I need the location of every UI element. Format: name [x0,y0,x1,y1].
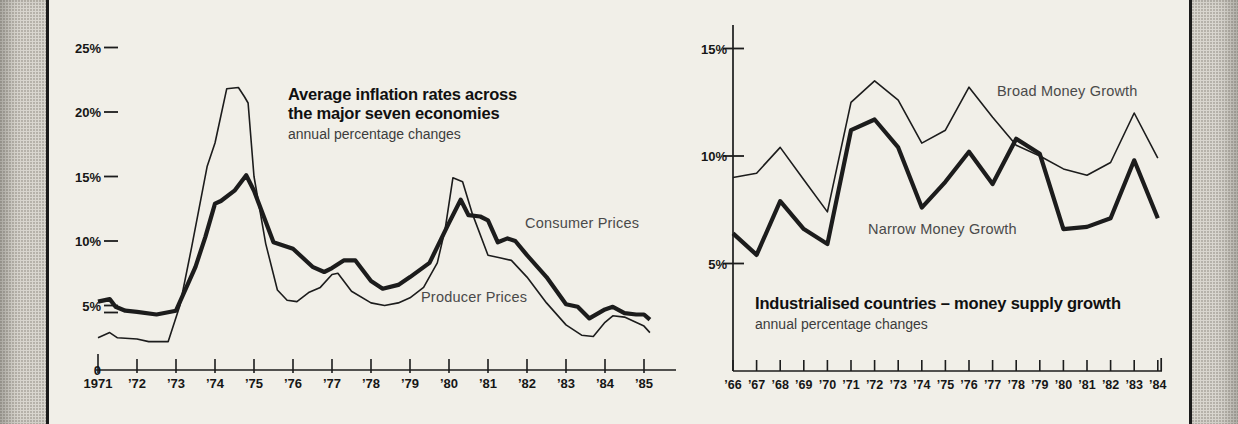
inflation-x-tick-label: ’75 [245,376,263,391]
inflation-y-tick-label: 0 [94,363,101,378]
series-label-narrow-money-growth: Narrow Money Growth [868,221,1017,237]
inflation-x-tick-label: ’80 [440,376,458,391]
inflation-series-consumer-prices [98,175,650,320]
inflation-x-tick-label: ’81 [479,376,497,391]
inflation-x-tick-label: ’73 [167,376,185,391]
money-x-tick-label: ’77 [984,378,1001,392]
money-x-tick-label: ’74 [913,378,930,392]
money-x-tick-label: ’83 [1126,378,1143,392]
money-chart-title: Industrialised countries – money supply … [755,294,1121,334]
money-title-line-1: Industrialised countries – money supply … [755,294,1121,313]
inflation-x-tick-label: ’77 [323,376,341,391]
series-label-consumer-prices: Consumer Prices [525,215,639,231]
inflation-y-tick-label: 20% [75,105,101,120]
money-chart-subtitle: annual percentage changes [755,315,1121,334]
inflation-y-tick-label: 10% [75,234,101,249]
inflation-x-tick-label: ’76 [284,376,302,391]
money-x-tick-label: ’75 [937,378,954,392]
money-x-tick-label: ’80 [1055,378,1072,392]
inflation-title-line-2: the major seven economies [288,104,517,123]
money-x-tick-label: ’82 [1102,378,1119,392]
money-y-tick-label: 5% [708,257,727,272]
inflation-x-tick-label: ’82 [518,376,536,391]
money-x-tick-label: ’70 [819,378,836,392]
money-x-tick-label: ’72 [866,378,883,392]
money-y-tick-label: 10% [701,149,727,164]
inflation-x-tick-label: ’74 [206,376,225,391]
inflation-x-tick-label: ’79 [401,376,419,391]
inflation-x-tick-label: ’85 [635,376,653,391]
inflation-y-tick-label: 15% [75,170,101,185]
inflation-x-tick-label: ’72 [128,376,146,391]
money-x-tick-label: ’76 [960,378,977,392]
inflation-x-tick-label: ’83 [557,376,575,391]
money-y-tick-label: 15% [701,42,727,57]
scanned-chart-page: { "frame": { "page_bg": "#f1efe8", "edge… [0,0,1238,424]
series-label-producer-prices: Producer Prices [421,289,527,305]
money-x-tick-label: ’67 [748,378,765,392]
money-x-tick-label: ’69 [795,378,812,392]
money-x-tick-label: ’84 [1149,378,1166,392]
money-x-tick-label: ’78 [1008,378,1025,392]
inflation-x-tick-label: 1971 [84,376,113,391]
money-x-tick-label: ’81 [1078,378,1095,392]
money-series-broad-money-growth [733,81,1158,212]
inflation-x-tick-label: ’84 [596,376,615,391]
inflation-chart-title: Average inflation rates across the major… [288,85,517,144]
money-x-tick-label: ’68 [772,378,789,392]
inflation-x-tick-label: ’78 [362,376,380,391]
inflation-chart-subtitle: annual percentage changes [288,125,517,144]
inflation-y-tick-label: 25% [75,41,101,56]
money-x-tick-label: ’73 [890,378,907,392]
money-x-tick-label: ’79 [1031,378,1048,392]
money-x-tick-label: ’71 [842,378,859,392]
money-x-tick-label: ’66 [724,378,741,392]
charts-canvas: 1971’72’73’74’75’76’77’78’79’80’81’82’83… [0,0,1238,424]
series-label-broad-money-growth: Broad Money Growth [997,83,1138,99]
inflation-title-line-1: Average inflation rates across [288,85,517,104]
